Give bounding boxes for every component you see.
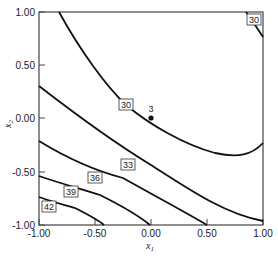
contour-36 xyxy=(39,141,207,225)
y-tick-label: 0.00 xyxy=(16,113,36,124)
svg-text:30: 30 xyxy=(121,100,131,110)
contour-label-36: 36 xyxy=(88,172,102,183)
y-tick-label: 0.50 xyxy=(16,60,36,71)
point-label: 3 xyxy=(148,104,153,114)
contour-label-30a: 30 xyxy=(119,99,133,110)
contour-label-42: 42 xyxy=(42,201,56,212)
point-marker xyxy=(148,115,153,120)
x-tick-label: 0.50 xyxy=(197,228,217,239)
contour-plot: 1.00 0.50 0.00 -0.50 -1.00 x2 -1.00 -0.5… xyxy=(0,0,278,256)
contour-label-33: 33 xyxy=(121,159,135,170)
x-tick-label: 1.00 xyxy=(253,228,273,239)
contour-label-30b: 30 xyxy=(247,14,261,25)
x-axis-title: x1 xyxy=(145,240,154,253)
y-tick-label: 1.00 xyxy=(16,7,36,18)
contour-30-main xyxy=(59,12,263,155)
svg-text:x2: x2 xyxy=(2,120,15,129)
y-axis-title: x2 xyxy=(2,120,15,129)
design-point-3: 3 xyxy=(148,104,153,121)
x-tick-label: 0.00 xyxy=(141,228,161,239)
y-tick-label: -0.50 xyxy=(12,167,35,178)
svg-text:33: 33 xyxy=(123,160,133,170)
svg-text:42: 42 xyxy=(44,202,54,212)
x-axis: -1.00 -0.50 0.00 0.50 1.00 x1 xyxy=(28,219,274,253)
svg-text:39: 39 xyxy=(66,187,76,197)
svg-text:30: 30 xyxy=(249,15,259,25)
x-tick-label: -1.00 xyxy=(28,228,51,239)
contour-label-39: 39 xyxy=(64,186,78,197)
x-tick-label: -0.50 xyxy=(84,228,107,239)
svg-text:36: 36 xyxy=(90,173,100,183)
